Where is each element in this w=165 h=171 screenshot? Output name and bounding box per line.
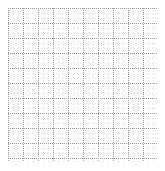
grid-lines: [8, 8, 157, 162]
plot-area: [8, 8, 157, 162]
figure-canvas: [0, 0, 165, 171]
